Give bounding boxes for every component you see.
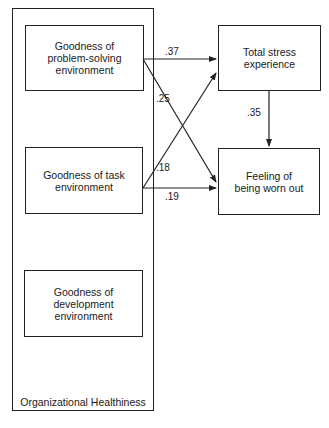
coefficient-task-wornout: .19 (165, 191, 179, 202)
edge-arrow (143, 59, 216, 182)
edge-arrow (143, 73, 216, 188)
coefficient-stress-wornout: .35 (247, 107, 261, 118)
coefficient-ps-wornout: .25 (156, 93, 170, 104)
coefficient-ps-stress: .37 (165, 46, 179, 57)
coefficient-task-stress: .18 (156, 162, 170, 173)
edges-layer (0, 0, 329, 428)
